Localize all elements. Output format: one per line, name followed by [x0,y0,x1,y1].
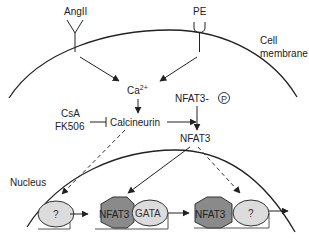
csa-label: CsA [61,108,80,119]
pathway-diagram: AngII PE Cell membrane Ca2+ CsA FK506 Ca… [0,0,309,240]
nfat3-label-2: NFAT3 [195,209,226,220]
gata-label: GATA [135,208,161,219]
inhibition-bar-icon [90,117,106,127]
nfat3-factor2-group: NFAT3 ? [194,197,269,228]
cell-membrane-label-2: membrane [260,48,308,59]
angii-receptor-icon [67,20,83,52]
cell-membrane-label-1: Cell [260,35,277,46]
angii-to-ca-arrow [80,57,119,81]
pe-to-ca-arrow [160,57,197,81]
factor2-label: ? [248,208,254,219]
phosphate-icon: P [219,93,230,104]
svg-text:P: P [221,94,227,104]
nfat3-phospho-label: NFAT3- [175,93,209,104]
nucleus-label: Nucleus [10,177,46,188]
nfat3-label: NFAT3 [180,133,211,144]
calcineurin-label: Calcineurin [110,117,160,128]
nfat3-to-factor2-dashed-arrow [198,147,240,193]
nfat3-gata-group: NFAT3 GATA [95,197,168,229]
fk506-label: FK506 [55,121,85,132]
calcium-label: Ca2+ [127,84,148,96]
calcineurin-to-factor1-dashed-arrow [62,130,125,194]
nfat3-label-1: NFAT3 [99,209,130,220]
angii-label: AngII [64,6,87,17]
pe-label: PE [193,6,207,17]
factor1-label: ? [53,209,59,220]
cell-membrane [9,30,297,98]
factor1-group: ? [38,201,74,229]
pe-receptor-icon [194,22,205,52]
